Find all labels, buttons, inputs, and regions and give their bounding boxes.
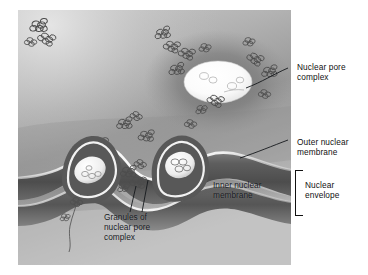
nuclear-envelope-bracket: [295, 170, 303, 216]
face-on-nuclear-pore: [144, 30, 291, 134]
nuclear-envelope-illustration: [18, 10, 291, 265]
illustration-plate: [18, 10, 291, 265]
figure-root: Nuclear pore complex Outer nuclear membr…: [0, 0, 368, 275]
label-nuclear-pore-complex: Nuclear pore complex: [297, 62, 346, 82]
label-outer-nuclear-membrane: Outer nuclear membrane: [297, 137, 349, 157]
label-granules-of-nuclear-pore-complex: Granules of nuclear pore complex: [104, 212, 150, 243]
label-inner-nuclear-membrane: Inner nuclear membrane: [213, 180, 261, 200]
label-nuclear-envelope: Nuclear envelope: [305, 180, 339, 200]
